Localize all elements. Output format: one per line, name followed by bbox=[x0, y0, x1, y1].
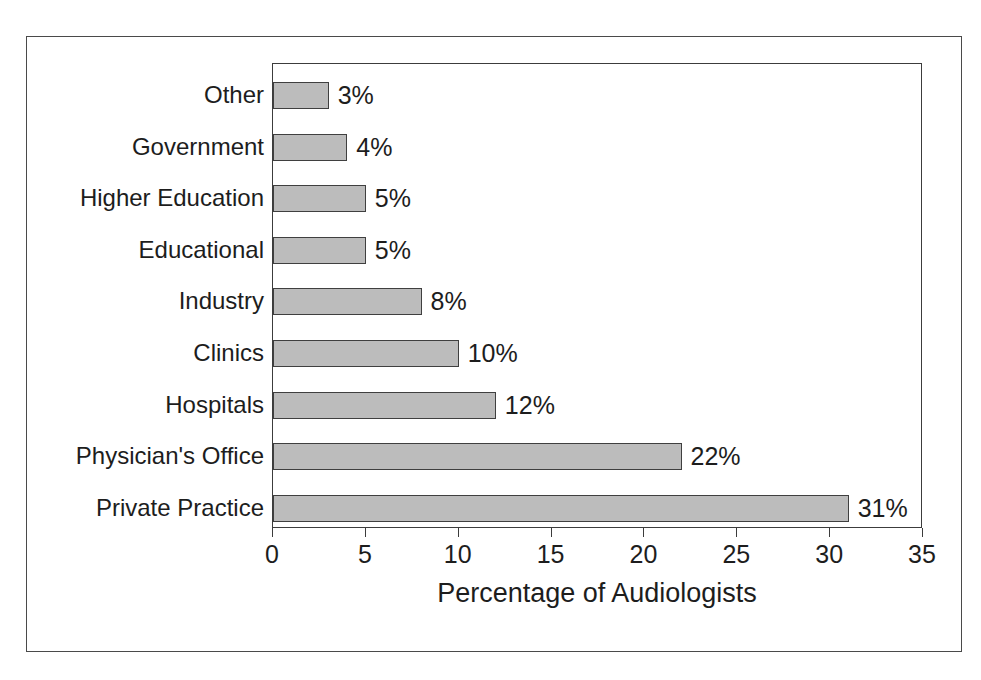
y-axis-tick-label: Private Practice bbox=[96, 494, 264, 521]
y-axis-tick-label: Government bbox=[132, 133, 264, 160]
x-axis-tick-label: 5 bbox=[358, 540, 372, 569]
y-axis-category-labels: OtherGovernmentHigher EducationEducation… bbox=[40, 63, 264, 528]
x-axis-tick-mark bbox=[829, 528, 830, 537]
x-axis-tick-label: 25 bbox=[722, 540, 750, 569]
x-axis-tick-mark bbox=[365, 528, 366, 537]
x-axis-tick-label: 10 bbox=[444, 540, 472, 569]
y-axis-tick-label: Hospitals bbox=[165, 391, 264, 418]
x-axis-tick-label: 20 bbox=[630, 540, 658, 569]
y-axis-tick-label: Other bbox=[204, 81, 264, 108]
x-axis-tick-label: 30 bbox=[815, 540, 843, 569]
bar-value-label: 3% bbox=[329, 82, 374, 109]
bar bbox=[273, 392, 496, 419]
bar bbox=[273, 237, 366, 264]
x-axis-tick-label: 0 bbox=[265, 540, 279, 569]
bar-value-label: 12% bbox=[496, 392, 555, 419]
bar bbox=[273, 340, 459, 367]
y-axis-tick-label: Educational bbox=[139, 236, 264, 263]
bar-value-label: 31% bbox=[849, 495, 908, 522]
x-axis-tick-mark bbox=[736, 528, 737, 537]
bar bbox=[273, 495, 849, 522]
x-axis-tick-mark bbox=[272, 528, 273, 537]
x-axis-tick-mark bbox=[643, 528, 644, 537]
bar-value-label: 8% bbox=[422, 288, 467, 315]
y-axis-tick-label: Clinics bbox=[193, 339, 264, 366]
bars-layer: 3%4%5%5%8%10%12%22%31% bbox=[273, 64, 921, 527]
bar bbox=[273, 185, 366, 212]
bar-value-label: 22% bbox=[682, 443, 741, 470]
bar-value-label: 10% bbox=[459, 340, 518, 367]
bar bbox=[273, 134, 347, 161]
bar-value-label: 4% bbox=[347, 134, 392, 161]
x-axis-tick-mark bbox=[458, 528, 459, 537]
bar bbox=[273, 443, 682, 470]
y-axis-tick-label: Physician's Office bbox=[76, 442, 264, 469]
x-axis-tick-mark bbox=[922, 528, 923, 537]
bar-value-label: 5% bbox=[366, 237, 411, 264]
x-axis-tick-label: 15 bbox=[537, 540, 565, 569]
x-axis-tick-label: 35 bbox=[908, 540, 936, 569]
bar-value-label: 5% bbox=[366, 185, 411, 212]
x-axis-tick-mark bbox=[551, 528, 552, 537]
y-axis-tick-label: Higher Education bbox=[80, 184, 264, 211]
bar bbox=[273, 288, 422, 315]
x-axis-title: Percentage of Audiologists bbox=[272, 578, 922, 609]
y-axis-tick-label: Industry bbox=[179, 287, 264, 314]
bar bbox=[273, 82, 329, 109]
plot-area: 3%4%5%5%8%10%12%22%31% bbox=[272, 63, 922, 528]
figure-canvas: OtherGovernmentHigher EducationEducation… bbox=[0, 0, 981, 680]
